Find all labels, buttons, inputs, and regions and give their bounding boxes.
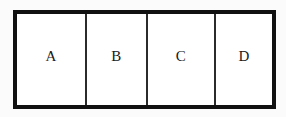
cell-d-label: D bbox=[238, 49, 249, 64]
partitioned-rectangle: A B C D bbox=[13, 10, 276, 109]
cell-c[interactable]: C bbox=[146, 14, 214, 105]
cell-d[interactable]: D bbox=[214, 14, 272, 105]
cell-b-label: B bbox=[111, 49, 121, 64]
cell-b[interactable]: B bbox=[85, 14, 146, 105]
diagram-canvas: A B C D bbox=[0, 0, 286, 117]
cell-a-label: A bbox=[45, 49, 56, 64]
cell-c-label: C bbox=[176, 49, 186, 64]
cell-a[interactable]: A bbox=[17, 14, 85, 105]
